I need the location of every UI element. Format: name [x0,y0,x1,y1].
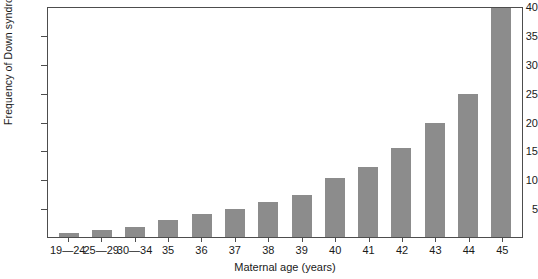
bar-19-24[interactable] [59,233,79,237]
bar-slot [318,8,351,237]
x-tick-42 [402,238,403,242]
x-tick-label-35: 35 [162,245,174,256]
bar-40[interactable] [325,178,345,237]
x-tick-44 [469,238,470,242]
bar-slot [52,8,85,237]
x-tick-label-25-29: 25—29 [83,245,118,256]
bar-44[interactable] [458,94,478,237]
bar-41[interactable] [358,167,378,237]
bar-slot [252,8,285,237]
x-tick-38 [268,238,269,242]
x-tick-label-43: 43 [429,245,441,256]
bar-slot [485,8,518,237]
x-tick-41 [369,238,370,242]
x-tick-label-39: 39 [296,245,308,256]
down-syndrome-frequency-bar-chart: Frequency of Down syndrome per 1,000 liv… [0,0,538,279]
x-tick-43 [435,238,436,242]
bar-slot [85,8,118,237]
bar-slot [119,8,152,237]
bar-slot [451,8,484,237]
bar-37[interactable] [225,209,245,237]
x-tick-36 [201,238,202,242]
x-tick-label-36: 36 [195,245,207,256]
bar-slot [218,8,251,237]
x-tick-label-41: 41 [362,245,374,256]
x-tick-35 [168,238,169,242]
bar-30-34[interactable] [125,227,145,237]
bar-36[interactable] [192,214,212,237]
y-axis-title-text: Frequency of Down syndrome per 1,000 liv… [4,0,15,125]
x-tick-45 [502,238,503,242]
bar-slot [285,8,318,237]
bar-38[interactable] [258,202,278,237]
x-tick-19-24 [68,238,69,242]
bar-slot [385,8,418,237]
x-tick-label-30-34: 30—34 [117,245,152,256]
bar-42[interactable] [391,148,411,237]
bar-35[interactable] [158,220,178,237]
x-tick-label-44: 44 [463,245,475,256]
bar-slot [352,8,385,237]
bar-series [48,8,522,237]
x-tick-label-37: 37 [229,245,241,256]
bar-39[interactable] [292,195,312,237]
bar-45[interactable] [491,7,511,237]
bar-slot [152,8,185,237]
bar-25-29[interactable] [92,230,112,238]
bar-slot [418,8,451,237]
x-axis-title: Maternal age (years) [47,262,523,273]
x-tick-label-19-24: 19—24 [50,245,85,256]
x-tick-39 [302,238,303,242]
bar-slot [185,8,218,237]
x-tick-label-40: 40 [329,245,341,256]
y-axis-title: Frequency of Down syndrome per 1,000 liv… [0,0,18,240]
x-tick-25-29 [101,238,102,242]
x-tick-label-45: 45 [496,245,508,256]
bar-43[interactable] [425,123,445,237]
x-tick-40 [335,238,336,242]
x-tick-37 [235,238,236,242]
plot-area [47,7,523,238]
x-tick-label-38: 38 [262,245,274,256]
x-tick-30-34 [135,238,136,242]
x-tick-label-42: 42 [396,245,408,256]
